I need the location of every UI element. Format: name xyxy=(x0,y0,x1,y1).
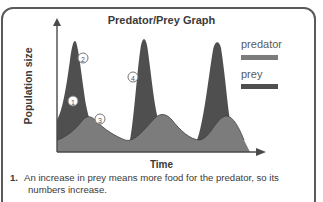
legend-prey-swatch xyxy=(241,84,278,89)
legend-predator-swatch xyxy=(241,55,278,60)
y-axis-arrow-icon xyxy=(53,18,61,26)
marker-2: 2 xyxy=(78,53,89,64)
note-text: An increase in prey means more food for … xyxy=(24,172,279,183)
x-axis-label: Time xyxy=(0,159,323,170)
marker-4: 4 xyxy=(128,72,139,83)
note-number: 1. xyxy=(10,172,24,184)
marker-3: 3 xyxy=(95,114,106,125)
legend-predator-label: predator xyxy=(241,38,282,50)
x-axis-arrow-icon xyxy=(256,148,266,156)
legend-prey-label: prey xyxy=(241,68,262,80)
marker-1: 1 xyxy=(68,96,79,107)
note-text-continuation: numbers increase. xyxy=(10,184,310,196)
y-axis-label: Population size xyxy=(22,47,34,124)
note-item-1: 1.An increase in prey means more food fo… xyxy=(10,172,310,196)
